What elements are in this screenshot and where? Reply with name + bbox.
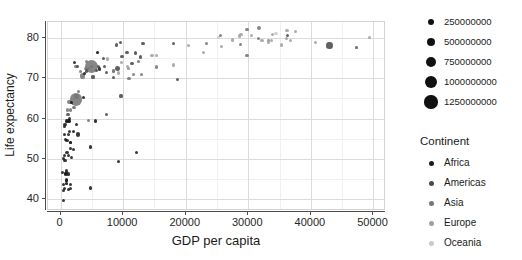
- x-tick-label: 30000: [232, 217, 263, 228]
- data-point: [172, 42, 175, 45]
- data-point: [102, 57, 105, 60]
- data-point: [267, 39, 270, 42]
- data-point: [63, 123, 66, 126]
- circle-icon: [429, 161, 434, 166]
- circle-icon: [426, 57, 436, 67]
- legend-size-label: 750000000: [444, 57, 492, 67]
- data-point: [63, 133, 66, 136]
- gridline: [48, 78, 384, 79]
- gridline: [342, 22, 343, 209]
- legend-continent-row: Asia: [418, 193, 522, 213]
- gridline: [217, 22, 218, 209]
- data-point: [155, 65, 158, 68]
- legend-continent: Continent AfricaAmericasAsiaEuropeOceani…: [418, 135, 522, 253]
- data-point: [220, 45, 223, 48]
- gridline: [48, 119, 384, 120]
- data-point: [326, 42, 332, 48]
- data-point: [294, 30, 297, 33]
- data-point: [274, 32, 277, 35]
- data-point: [141, 42, 144, 45]
- legend-size-row: 1250000000: [418, 92, 522, 112]
- data-point: [257, 37, 260, 40]
- data-point: [72, 148, 75, 151]
- data-point: [257, 26, 261, 30]
- legend-size-swatch: [418, 57, 444, 67]
- data-point: [87, 119, 90, 122]
- x-axis-title: GDP per capita: [47, 233, 385, 248]
- data-point: [125, 51, 128, 54]
- data-point: [119, 94, 122, 97]
- data-point: [132, 73, 135, 76]
- data-point: [127, 77, 130, 80]
- data-point: [239, 43, 242, 46]
- data-point: [105, 113, 108, 116]
- legend-population: 2500000005000000007500000001000000000125…: [418, 12, 522, 112]
- x-tick: [122, 211, 123, 215]
- data-point: [76, 65, 79, 68]
- y-axis-title: Life expectancy: [3, 40, 17, 190]
- legend-size-swatch: [418, 76, 444, 88]
- data-point: [115, 43, 118, 46]
- gridline: [48, 139, 384, 140]
- legend-continent-swatch: [418, 201, 444, 206]
- y-tick: [42, 77, 46, 78]
- data-point: [89, 145, 92, 148]
- legend-continent-title: Continent: [418, 135, 522, 147]
- data-point: [139, 55, 142, 58]
- data-point: [120, 55, 123, 58]
- data-point: [72, 130, 75, 133]
- data-point: [73, 106, 76, 109]
- plot-panel: [47, 21, 385, 210]
- data-point: [69, 183, 72, 186]
- circle-icon: [428, 19, 434, 25]
- y-tick-label: 60: [27, 112, 39, 123]
- legend-size-row: 250000000: [418, 12, 522, 32]
- legend-continent-row: Oceania: [418, 233, 522, 253]
- circle-icon: [427, 38, 435, 46]
- data-point: [66, 119, 69, 122]
- legend-size-label: 1000000000: [444, 77, 497, 87]
- gridline: [92, 22, 93, 209]
- legend-continent-swatch: [418, 181, 444, 186]
- data-point: [285, 37, 288, 40]
- legend-size-swatch: [418, 38, 444, 46]
- legend-size-swatch: [418, 95, 444, 108]
- gridline: [48, 199, 384, 200]
- data-point: [70, 156, 73, 159]
- gridline: [311, 22, 312, 209]
- data-point: [250, 34, 253, 37]
- data-point: [83, 72, 86, 75]
- legend-continent-label: Americas: [444, 178, 486, 188]
- y-tick-label: 40: [27, 192, 39, 203]
- gridline: [373, 22, 374, 209]
- data-point: [127, 67, 130, 70]
- data-point: [231, 38, 234, 41]
- data-point: [117, 71, 120, 74]
- data-point: [135, 151, 138, 154]
- gridline: [48, 38, 384, 39]
- data-point: [67, 188, 70, 191]
- legend-continent-swatch: [418, 221, 444, 226]
- gridline: [154, 22, 155, 209]
- data-point: [62, 199, 65, 202]
- data-point: [239, 33, 242, 36]
- y-tick: [42, 198, 46, 199]
- data-point: [119, 41, 122, 44]
- data-point: [94, 119, 97, 122]
- legend-size-label: 250000000: [444, 17, 492, 27]
- data-point: [219, 34, 222, 37]
- data-point: [245, 28, 248, 31]
- gridline: [280, 22, 281, 209]
- data-point: [66, 113, 69, 116]
- data-point: [65, 151, 68, 154]
- data-point: [202, 51, 205, 54]
- data-point: [103, 65, 106, 68]
- legend-size-row: 1000000000: [418, 72, 522, 92]
- data-point: [286, 34, 289, 37]
- gridline: [48, 159, 384, 160]
- data-point: [74, 94, 79, 99]
- y-tick: [42, 37, 46, 38]
- circle-icon: [429, 241, 434, 246]
- data-point: [105, 71, 108, 74]
- x-tick-label: 10000: [107, 217, 138, 228]
